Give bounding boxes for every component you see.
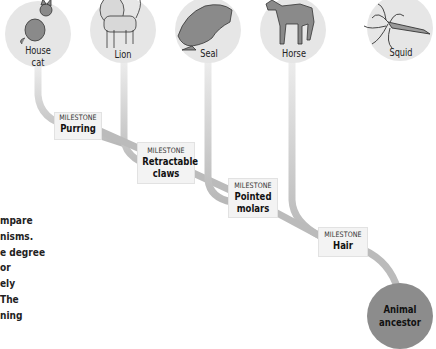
milestone-pointed-molars: MILESTONE Pointed molars xyxy=(228,178,278,218)
leaf-label-seal: Seal xyxy=(193,48,226,60)
root-label-line: ancestor xyxy=(375,316,426,329)
branch-horse xyxy=(292,62,320,236)
caption-line: ning xyxy=(0,308,45,324)
caption-line: e degree xyxy=(0,245,45,261)
milestone-title: Purring xyxy=(58,123,97,135)
leaf-label-line: Seal xyxy=(193,48,226,60)
leaf-label-line: Horse xyxy=(278,48,311,60)
milestone-kicker: MILESTONE xyxy=(58,113,97,123)
root-label-line: Animal xyxy=(375,303,426,316)
leaf-label-lion: Lion xyxy=(107,49,140,61)
caption-line: mpare xyxy=(0,213,45,229)
leaf-label-squid: Squid xyxy=(385,47,418,59)
caption-line: ely xyxy=(0,276,45,292)
root-label-animal-ancestor: Animal ancestor xyxy=(375,303,426,329)
milestone-kicker: MILESTONE xyxy=(233,181,274,191)
milestone-title-line2: molars xyxy=(233,203,274,215)
caption-line: or xyxy=(0,260,45,276)
milestone-title: Retractable xyxy=(142,156,190,168)
leaf-label-line: Squid xyxy=(385,47,418,59)
leaf-label-house-cat: House cat xyxy=(22,45,55,69)
leaf-label-line: Lion xyxy=(107,49,140,61)
milestone-kicker: MILESTONE xyxy=(142,146,190,156)
milestone-title-line2: claws xyxy=(142,168,190,180)
caption-line: nisms. xyxy=(0,229,45,245)
milestone-kicker: MILESTONE xyxy=(323,230,364,240)
milestone-retractable-claws: MILESTONE Retractable claws xyxy=(137,142,195,184)
milestone-purring: MILESTONE Purring xyxy=(54,112,102,140)
milestone-title: Hair xyxy=(323,240,364,252)
caption-line: The xyxy=(0,292,45,308)
milestone-hair: MILESTONE Hair xyxy=(318,227,368,257)
leaf-label-horse: Horse xyxy=(278,48,311,60)
side-caption-text: mpare nisms. e degree or ely The ning xyxy=(0,213,45,324)
leaf-label-line: House xyxy=(22,45,55,57)
leaf-label-line: cat xyxy=(22,57,55,69)
milestone-title: Pointed xyxy=(233,191,274,203)
